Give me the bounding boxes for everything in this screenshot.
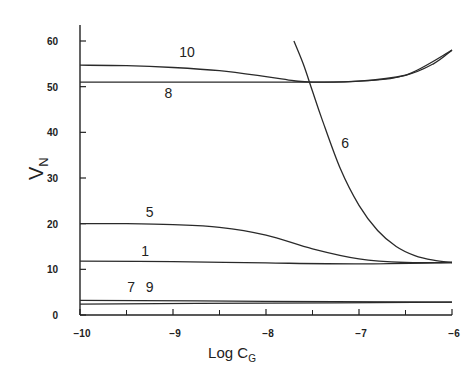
curve-label-6: 6 — [341, 135, 349, 151]
x-axis-title: Log CG — [208, 344, 256, 364]
line-chart: 0102030405060 −10−9−8−7−6 10865179 VN Lo… — [0, 0, 476, 381]
x-tick-label: −7 — [355, 328, 367, 339]
y-tick-label: 60 — [47, 36, 59, 47]
x-tick-label: −6 — [448, 328, 460, 339]
curve-label-8: 8 — [164, 85, 172, 101]
curve-label-1: 1 — [141, 243, 149, 259]
y-tick-label: 10 — [47, 264, 59, 275]
y-tick-label: 20 — [47, 219, 59, 230]
curve-label-10: 10 — [179, 44, 195, 60]
curve-9 — [80, 302, 452, 304]
y-tick-label: 40 — [47, 127, 59, 138]
y-tick-label: 50 — [47, 82, 59, 93]
curve-6 — [294, 41, 452, 262]
x-tick-label: −10 — [74, 328, 91, 339]
curve-label-7: 7 — [127, 279, 135, 295]
curve-5 — [80, 224, 452, 263]
y-axis-title-subscript: N — [36, 157, 51, 166]
curve-label-9: 9 — [146, 279, 154, 295]
axes: 0102030405060 −10−9−8−7−6 — [47, 25, 460, 339]
y-axis-title-main: V — [25, 166, 47, 180]
x-tick-label: −8 — [262, 328, 274, 339]
x-ticks: −10−9−8−7−6 — [74, 309, 461, 339]
x-axis-title-subscript: G — [248, 353, 256, 364]
curves — [80, 41, 452, 304]
x-tick-label: −9 — [169, 328, 181, 339]
y-tick-label: 0 — [52, 310, 58, 321]
x-axis-title-main: Log C — [208, 344, 248, 361]
curve-label-5: 5 — [146, 204, 154, 220]
y-tick-label: 30 — [47, 173, 59, 184]
